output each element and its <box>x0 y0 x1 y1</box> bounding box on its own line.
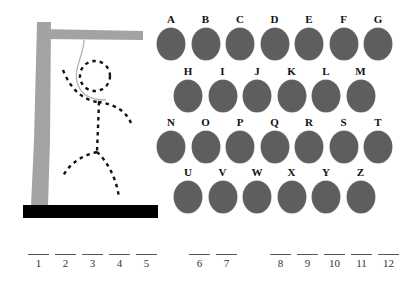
letter-button[interactable]: A <box>156 13 186 61</box>
letter-disc[interactable] <box>209 181 237 213</box>
letter-button[interactable]: T <box>363 116 393 164</box>
blank-line <box>297 254 318 255</box>
letter-disc[interactable] <box>243 181 271 213</box>
letter-button[interactable]: P <box>225 116 255 164</box>
letter-slot: 6 <box>189 254 210 276</box>
letter-label: E <box>294 13 324 25</box>
letter-disc[interactable] <box>364 131 392 163</box>
letter-disc[interactable] <box>226 28 254 60</box>
right-arm <box>98 102 132 126</box>
letter-button[interactable]: M <box>346 65 376 113</box>
letter-label: W <box>242 166 272 178</box>
letter-disc[interactable] <box>295 131 323 163</box>
hangman-drawing <box>0 0 170 230</box>
slot-number: 5 <box>136 257 157 269</box>
letter-slot: 3 <box>82 254 103 276</box>
letter-button[interactable]: X <box>277 166 307 214</box>
letter-disc[interactable] <box>330 28 358 60</box>
letter-button[interactable]: Y <box>311 166 341 214</box>
letter-disc[interactable] <box>295 28 323 60</box>
letter-label: A <box>156 13 186 25</box>
letter-label: S <box>329 116 359 128</box>
letter-slot: 11 <box>351 254 372 276</box>
letter-button[interactable]: N <box>156 116 186 164</box>
letter-button[interactable]: D <box>260 13 290 61</box>
blank-line <box>270 254 291 255</box>
letter-disc[interactable] <box>157 28 185 60</box>
slot-number: 7 <box>216 257 237 269</box>
body <box>97 102 99 152</box>
letter-label: U <box>173 166 203 178</box>
letter-button[interactable]: L <box>311 65 341 113</box>
letter-slot: 9 <box>297 254 318 276</box>
letter-button[interactable]: W <box>242 166 272 214</box>
letter-button[interactable]: S <box>329 116 359 164</box>
slot-number: 2 <box>55 257 76 269</box>
letter-button[interactable]: I <box>208 65 238 113</box>
blank-line <box>324 254 345 255</box>
letter-slot: 1 <box>28 254 49 276</box>
letter-disc[interactable] <box>278 181 306 213</box>
slot-number: 6 <box>189 257 210 269</box>
letter-label: T <box>363 116 393 128</box>
letter-button[interactable]: J <box>242 65 272 113</box>
letter-button[interactable]: Q <box>260 116 290 164</box>
letter-label: H <box>173 65 203 77</box>
letter-slot: 10 <box>324 254 345 276</box>
letter-button[interactable]: H <box>173 65 203 113</box>
slot-number: 12 <box>378 257 399 269</box>
letter-button[interactable]: C <box>225 13 255 61</box>
letter-label: Y <box>311 166 341 178</box>
letter-label: Q <box>260 116 290 128</box>
letter-disc[interactable] <box>347 181 375 213</box>
letter-button[interactable]: V <box>208 166 238 214</box>
blank-line <box>378 254 399 255</box>
letter-button[interactable]: K <box>277 65 307 113</box>
letter-slot: 8 <box>270 254 291 276</box>
letter-slot: 5 <box>136 254 157 276</box>
letter-disc[interactable] <box>261 28 289 60</box>
letter-label: I <box>208 65 238 77</box>
right-leg <box>97 152 119 198</box>
gallows-base <box>23 205 158 218</box>
letter-disc[interactable] <box>174 80 202 112</box>
letter-disc[interactable] <box>261 131 289 163</box>
letter-label: J <box>242 65 272 77</box>
letter-button[interactable]: O <box>191 116 221 164</box>
letter-disc[interactable] <box>174 181 202 213</box>
letter-label: K <box>277 65 307 77</box>
slot-number: 4 <box>109 257 130 269</box>
letter-disc[interactable] <box>243 80 271 112</box>
letter-slot: 4 <box>109 254 130 276</box>
letter-button[interactable]: B <box>191 13 221 61</box>
letter-button[interactable]: G <box>363 13 393 61</box>
letter-disc[interactable] <box>364 28 392 60</box>
letter-disc[interactable] <box>330 131 358 163</box>
letter-disc[interactable] <box>157 131 185 163</box>
letter-label: V <box>208 166 238 178</box>
letter-slot: 12 <box>378 254 399 276</box>
letter-button[interactable]: R <box>294 116 324 164</box>
letter-disc[interactable] <box>278 80 306 112</box>
blank-line <box>216 254 237 255</box>
letter-label: Z <box>346 166 376 178</box>
stick-figure-icon <box>63 61 132 198</box>
letter-button[interactable]: Z <box>346 166 376 214</box>
letter-disc[interactable] <box>209 80 237 112</box>
blank-line <box>351 254 372 255</box>
slot-number: 3 <box>82 257 103 269</box>
blank-line <box>189 254 210 255</box>
letter-disc[interactable] <box>312 181 340 213</box>
letter-disc[interactable] <box>192 131 220 163</box>
slot-number: 10 <box>324 257 345 269</box>
letter-disc[interactable] <box>312 80 340 112</box>
letter-disc[interactable] <box>347 80 375 112</box>
letter-button[interactable]: F <box>329 13 359 61</box>
letter-button[interactable]: U <box>173 166 203 214</box>
letter-disc[interactable] <box>192 28 220 60</box>
letter-label: N <box>156 116 186 128</box>
blank-line <box>55 254 76 255</box>
letter-slot: 7 <box>216 254 237 276</box>
letter-button[interactable]: E <box>294 13 324 61</box>
letter-disc[interactable] <box>226 131 254 163</box>
